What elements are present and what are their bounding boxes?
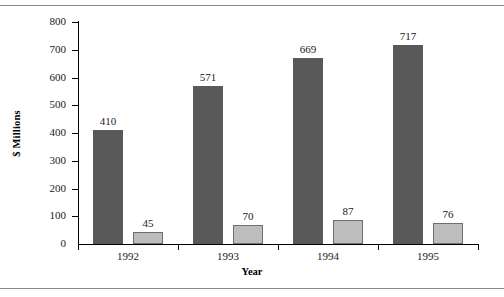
bar-value-label-1992-series-1: 410 [78, 115, 138, 127]
x-category-label-1995: 1995 [378, 250, 478, 262]
y-tick-label-500: 500 [26, 99, 66, 110]
y-tick-label-200: 200 [26, 183, 66, 194]
x-axis-title: Year [0, 266, 504, 277]
bar-1992-series-2[interactable] [133, 232, 163, 244]
bar-1994-series-2[interactable] [333, 220, 363, 244]
x-category-label-1993: 1993 [178, 250, 278, 262]
bar-1993-series-2[interactable] [233, 225, 263, 244]
y-tick-label-700: 700 [26, 44, 66, 55]
figure-canvas: 0100200300400500600700800 19921993199419… [0, 0, 504, 297]
x-category-label-1994: 1994 [278, 250, 378, 262]
y-tick-label-800: 800 [26, 16, 66, 27]
bar-chart-plot-area: 0100200300400500600700800 19921993199419… [0, 0, 504, 297]
y-tick-300 [72, 161, 78, 162]
bar-value-label-1995-series-2: 76 [418, 208, 478, 220]
y-axis-line [78, 21, 79, 245]
bar-value-label-1993-series-2: 70 [218, 210, 278, 222]
y-tick-800 [72, 22, 78, 23]
y-tick-100 [72, 216, 78, 217]
y-tick-600 [72, 78, 78, 79]
y-tick-500 [72, 105, 78, 106]
x-tick-4 [478, 244, 479, 250]
bar-value-label-1995-series-1: 717 [378, 30, 438, 42]
bar-value-label-1994-series-1: 669 [278, 43, 338, 55]
bar-value-label-1993-series-1: 571 [178, 71, 238, 83]
bar-1995-series-2[interactable] [433, 223, 463, 244]
bar-value-label-1992-series-2: 45 [118, 217, 178, 229]
y-tick-label-0: 0 [26, 238, 66, 249]
y-tick-label-100: 100 [26, 210, 66, 221]
y-tick-200 [72, 189, 78, 190]
y-tick-label-300: 300 [26, 155, 66, 166]
y-tick-label-600: 600 [26, 72, 66, 83]
x-category-label-1992: 1992 [78, 250, 178, 262]
y-axis-title: $ Millions [11, 94, 22, 174]
y-tick-700 [72, 50, 78, 51]
y-tick-400 [72, 133, 78, 134]
bar-value-label-1994-series-2: 87 [318, 205, 378, 217]
y-tick-label-400: 400 [26, 127, 66, 138]
